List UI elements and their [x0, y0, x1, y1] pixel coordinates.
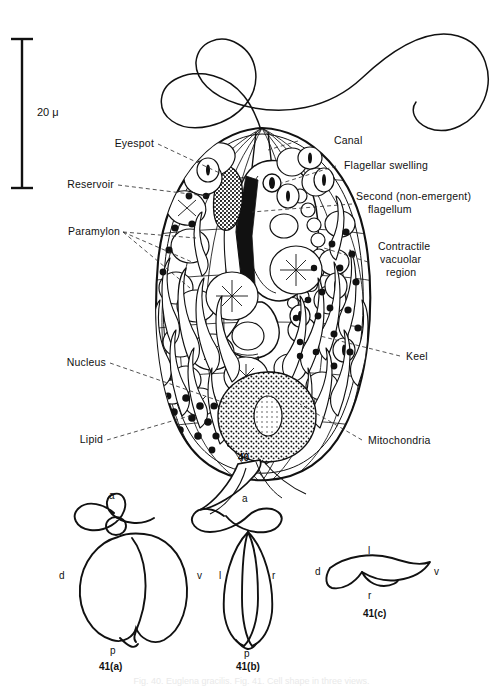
label-reservoir: Reservoir [14, 178, 114, 190]
axis-label-41a-dorsal: d [59, 570, 65, 581]
figure-number-41b: 41(b) [236, 661, 260, 672]
axis-label-41a-posterior: p [110, 645, 116, 656]
subfigure-41c [326, 555, 430, 588]
axis-label-41b-anterior: a [242, 493, 248, 504]
nucleus [218, 372, 316, 462]
label-contractile-line2: vacuolar [380, 253, 421, 265]
euglena-illustration [0, 0, 503, 688]
axis-label-41a-anterior: a [109, 490, 115, 501]
scale-bar [11, 39, 33, 188]
label-second-flagellum-line2: flagellum [368, 203, 412, 215]
label-mitochondria: Mitochondria [368, 434, 431, 446]
label-paramylon: Paramylon [20, 225, 120, 237]
figure-number-40: 40 [238, 452, 249, 463]
figure-root: 20 μ Eyespot Reservoir Paramylon Nucleus… [0, 0, 503, 688]
axis-label-41a-ventral: v [197, 570, 202, 581]
figure-caption: Fig. 40. Euglena gracilis. Fig. 41. Cell… [0, 676, 503, 686]
subfigure-41a [75, 494, 187, 647]
axis-label-41c-right: r [368, 590, 371, 601]
axis-label-41c-ventral: v [434, 566, 439, 577]
subfigure-41b [192, 509, 282, 649]
label-lipid: Lipid [30, 433, 103, 445]
label-eyespot: Eyespot [54, 137, 154, 149]
label-contractile-line3: region [386, 266, 416, 278]
figure-number-41c: 41(c) [363, 608, 386, 619]
label-nucleus: Nucleus [20, 356, 106, 368]
axis-label-41b-right: r [272, 570, 275, 581]
axis-label-41c-left: l [368, 545, 370, 556]
scale-bar-label: 20 μ [37, 106, 59, 118]
label-canal: Canal [334, 134, 362, 146]
axis-label-41b-left: l [219, 570, 221, 581]
label-second-flagellum-line1: Second (non-emergent) [356, 190, 471, 202]
label-keel: Keel [406, 350, 428, 362]
figure-number-41a: 41(a) [99, 661, 122, 672]
axis-label-41b-posterior: p [244, 648, 250, 659]
emergent-flagellum [161, 34, 488, 133]
axis-label-41c-dorsal: d [315, 566, 321, 577]
label-flagellar-swelling: Flagellar swelling [344, 159, 428, 171]
label-contractile-line1: Contractile [378, 240, 430, 252]
